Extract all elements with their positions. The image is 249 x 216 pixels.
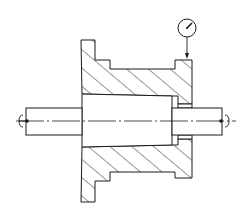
right-shaft: [172, 108, 222, 135]
dial-indicator-icon: [178, 19, 196, 59]
section-drawing: [0, 0, 249, 216]
tapered-arbor: [82, 94, 172, 147]
left-shaft: [26, 108, 82, 135]
housing-lower-section: [81, 139, 192, 202]
